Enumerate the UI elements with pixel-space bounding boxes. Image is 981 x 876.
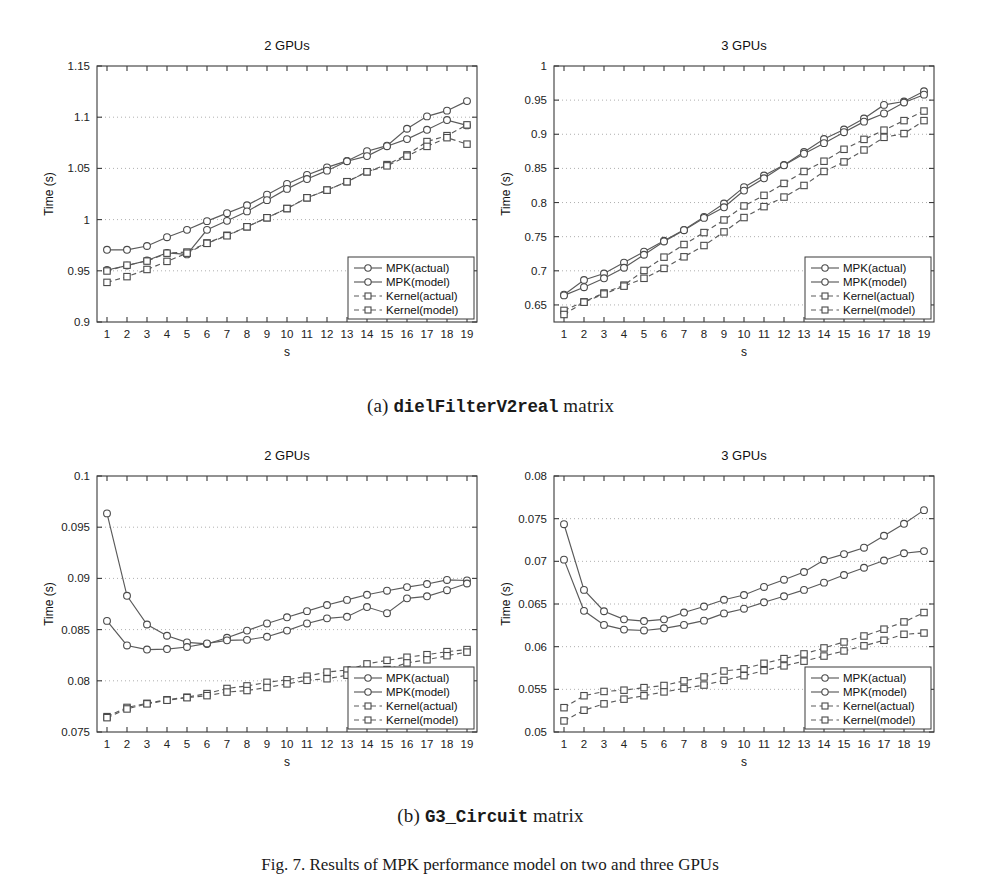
data-point-marker <box>841 572 848 579</box>
data-point-marker <box>821 579 828 586</box>
data-point-marker <box>801 569 808 576</box>
y-ticklabel: 0.075 <box>518 513 547 525</box>
data-point-marker <box>701 242 707 248</box>
x-ticklabel: 5 <box>184 738 190 750</box>
subcaption-b: (b) G3_Circuit matrix <box>0 805 981 827</box>
data-point-marker <box>881 102 888 109</box>
data-point-marker <box>124 592 131 599</box>
y-ticklabel: 0.9 <box>531 128 547 140</box>
chart-title-g3-2gpu: 2 GPUs <box>264 448 310 463</box>
data-point-marker <box>224 217 231 224</box>
data-point-marker <box>701 229 707 235</box>
data-point-marker <box>144 258 150 264</box>
x-ticklabel: 3 <box>601 738 607 750</box>
data-point-marker <box>144 646 151 653</box>
data-point-marker <box>324 167 331 174</box>
x-ticklabel: 9 <box>264 738 270 750</box>
x-ticklabel: 12 <box>321 328 334 340</box>
x-ticklabel: 19 <box>918 328 931 340</box>
data-point-marker <box>881 626 887 632</box>
data-point-marker <box>561 718 567 724</box>
data-point-marker <box>881 637 887 643</box>
data-point-marker <box>264 633 271 640</box>
data-point-marker <box>621 264 628 271</box>
data-point-marker <box>244 627 251 634</box>
x-ticklabel: 4 <box>621 328 628 340</box>
legend-marker-circle <box>822 265 828 271</box>
data-point-marker <box>404 136 411 143</box>
data-point-marker <box>164 646 171 653</box>
data-point-marker <box>444 653 450 659</box>
data-point-marker <box>821 653 827 659</box>
data-point-marker <box>364 604 371 611</box>
data-point-marker <box>324 615 331 622</box>
data-point-marker <box>741 605 748 612</box>
figure-container: 2 GPUs0.90.9511.051.11.15123456789101112… <box>0 0 981 876</box>
data-point-marker <box>681 678 687 684</box>
data-point-marker <box>621 696 627 702</box>
data-point-marker <box>861 118 868 125</box>
x-ticklabel: 14 <box>361 738 374 750</box>
chart-legend-g3-3gpu: MPK(actual)MPK(model)Kernel(actual)Kerne… <box>805 667 931 729</box>
data-point-marker <box>384 143 391 150</box>
data-point-marker <box>364 591 371 598</box>
data-point-marker <box>741 187 748 194</box>
data-point-marker <box>204 226 211 233</box>
data-point-marker <box>881 110 888 117</box>
data-point-marker <box>681 241 687 247</box>
x-ticklabel: 12 <box>778 328 791 340</box>
data-point-marker <box>641 627 648 634</box>
data-point-marker <box>561 311 567 317</box>
x-ticklabel: 18 <box>441 328 454 340</box>
legend-marker-circle <box>365 675 371 681</box>
series-path <box>564 551 924 630</box>
x-ticklabel: 11 <box>758 328 770 340</box>
data-point-marker <box>781 576 788 583</box>
data-point-marker <box>781 162 788 169</box>
data-point-marker <box>681 609 688 616</box>
y-ticklabel: 0.085 <box>61 624 90 636</box>
legend-label: Kernel(actual) <box>386 700 458 712</box>
legend-label: MPK(actual) <box>386 672 449 684</box>
legend-label: MPK(actual) <box>386 262 449 274</box>
series-path <box>107 125 467 271</box>
data-point-marker <box>244 224 250 230</box>
y-ticklabel: 1 <box>84 214 90 226</box>
legend-label: Kernel(actual) <box>843 290 915 302</box>
y-ticklabel: 0.7 <box>531 265 547 277</box>
data-point-marker <box>304 176 311 183</box>
data-point-marker <box>621 687 627 693</box>
chart-title-diel-3gpu: 3 GPUs <box>721 38 767 53</box>
y-ticklabel: 0.07 <box>525 555 547 567</box>
x-axis-label-diel-2gpu: s <box>284 345 290 359</box>
y-ticklabel: 1.1 <box>74 111 90 123</box>
x-ticklabel: 11 <box>301 738 313 750</box>
data-point-marker <box>641 267 647 273</box>
legend-label: Kernel(model) <box>843 714 915 726</box>
data-point-marker <box>444 587 451 594</box>
legend-marker-square <box>365 293 371 299</box>
x-ticklabel: 12 <box>321 738 334 750</box>
data-point-marker <box>641 684 647 690</box>
series-path <box>107 120 467 270</box>
data-point-marker <box>344 179 350 185</box>
data-point-marker <box>741 666 747 672</box>
data-point-marker <box>901 117 907 123</box>
data-point-marker <box>761 660 767 666</box>
data-point-marker <box>701 603 708 610</box>
data-point-marker <box>244 636 251 643</box>
data-point-marker <box>821 158 827 164</box>
data-point-marker <box>224 637 231 644</box>
data-point-marker <box>424 593 431 600</box>
legend-marker-square <box>822 307 828 313</box>
x-ticklabel: 9 <box>264 328 270 340</box>
legend-marker-square <box>365 703 371 709</box>
data-point-marker <box>601 291 607 297</box>
x-ticklabel: 7 <box>224 738 230 750</box>
legend-label: MPK(model) <box>386 276 450 288</box>
x-ticklabel: 17 <box>878 328 891 340</box>
data-point-marker <box>621 626 628 633</box>
x-ticklabel: 9 <box>721 328 727 340</box>
data-point-marker <box>264 215 270 221</box>
x-ticklabel: 8 <box>701 738 707 750</box>
